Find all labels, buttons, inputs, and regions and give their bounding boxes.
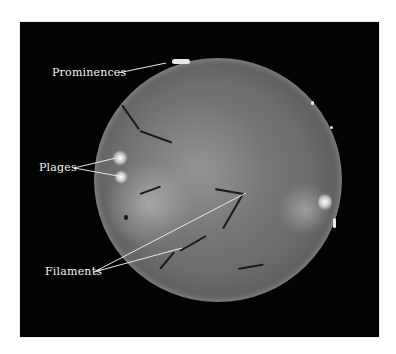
label-prominences: Prominences [52,66,126,79]
label-plages: Plages [39,161,77,174]
label-filaments: Filaments [45,265,102,278]
leader-lines [0,0,396,354]
